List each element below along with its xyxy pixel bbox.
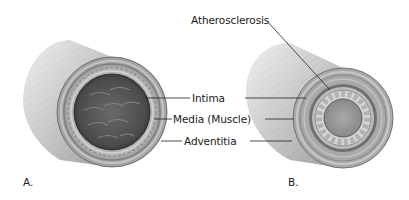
panel-label-a: A. xyxy=(23,176,33,188)
vessel-b xyxy=(246,43,393,168)
artery-diagram: Intima Media (Muscle) Adventitia Atheros… xyxy=(0,0,409,200)
vessel-a xyxy=(23,40,167,167)
panel-label-b: B. xyxy=(288,176,299,188)
label-atherosclerosis: Atherosclerosis xyxy=(191,14,269,26)
label-media: Media (Muscle) xyxy=(173,113,251,125)
label-intima: Intima xyxy=(192,92,225,104)
label-adventitia: Adventitia xyxy=(184,135,237,147)
